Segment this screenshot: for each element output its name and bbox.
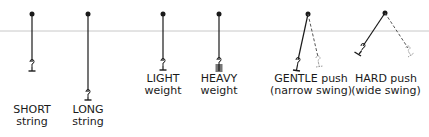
label-heavy-weight: HEAVY weight (200, 73, 237, 97)
pendulum-heavy-weight (216, 12, 223, 72)
label-line-2: string (13, 116, 50, 128)
pendulum-long-string (85, 12, 92, 101)
dashed-swing-position (308, 14, 318, 57)
label-gentle-push: GENTLE push (narrow swing) (270, 73, 352, 97)
label-line-2: weight (200, 85, 237, 97)
label-light-weight: LIGHT weight (144, 73, 181, 97)
pendulum-diagram (0, 0, 429, 137)
label-short-string: SHORT string (13, 104, 50, 128)
pendulum-gentle-push (293, 12, 323, 72)
label-line-2: (narrow swing) (270, 85, 352, 97)
label-line-2: weight (144, 85, 181, 97)
label-line-2: (wide swing) (351, 85, 421, 97)
label-hard-push: HARD push (wide swing) (351, 73, 421, 97)
pendulum-hard-push (355, 11, 415, 58)
ghost-weight-icon (316, 56, 323, 67)
solid-swing-position (363, 13, 385, 46)
hook-weight-icon (293, 58, 300, 72)
label-line-2: string (72, 116, 104, 128)
label-long-string: LONG string (72, 104, 104, 128)
pendulum-short-string (29, 12, 36, 72)
solid-swing-position (298, 14, 308, 60)
pendulum-light-weight (160, 12, 167, 71)
